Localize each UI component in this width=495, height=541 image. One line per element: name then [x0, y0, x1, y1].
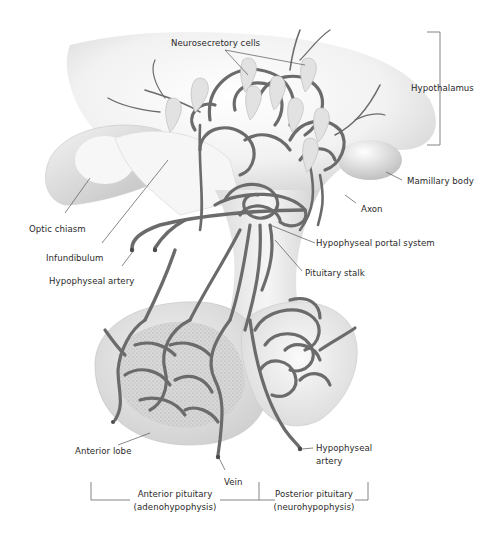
- label-anterior-pituitary-line1: Anterior pituitary: [130, 488, 220, 500]
- label-hypophyseal-portal-system: Hypophyseal portal system: [316, 237, 435, 249]
- label-anterior-lobe: Anterior lobe: [75, 445, 131, 457]
- label-vein: Vein: [224, 476, 243, 488]
- pituitary-diagram: Neurosecretory cells Hypothalamus Mamill…: [0, 0, 495, 541]
- label-anterior-pituitary-line2: (adenohypophysis): [130, 501, 220, 513]
- label-hypothalamus: Hypothalamus: [411, 82, 474, 94]
- label-posterior-pituitary-line1: Posterior pituitary: [272, 488, 356, 500]
- label-infundibulum: Infundibulum: [46, 252, 103, 264]
- label-optic-chiasm: Optic chiasm: [29, 223, 86, 235]
- label-pituitary-stalk: Pituitary stalk: [305, 267, 365, 279]
- label-neurosecretory-cells: Neurosecretory cells: [171, 37, 260, 49]
- label-mamillary-body: Mamillary body: [407, 175, 474, 187]
- label-axon: Axon: [361, 203, 383, 215]
- label-posterior-pituitary-line2: (neurohypophysis): [272, 501, 356, 513]
- mamillary-body-shape: [338, 140, 402, 180]
- posterior-pituitary-bracket-right: [355, 482, 368, 500]
- anterior-pituitary-bracket-left: [91, 482, 130, 500]
- label-hypophyseal-artery-lower-line1: Hypophyseal: [316, 442, 372, 454]
- label-hypophyseal-artery-upper: Hypophyseal artery: [49, 275, 134, 287]
- label-hypophyseal-artery-lower-line2: artery: [316, 455, 342, 467]
